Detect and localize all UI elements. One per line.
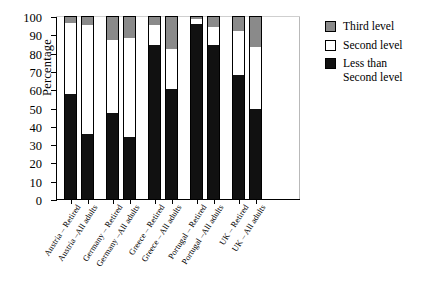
bar-segment-third <box>249 16 262 47</box>
bar-segment-second <box>249 47 262 109</box>
y-axis-tick-label: 20 <box>30 158 43 171</box>
bar-germany-retired <box>106 16 119 199</box>
y-axis-tick-label: 50 <box>30 103 43 116</box>
bar-segment-second <box>106 40 119 113</box>
bar-segment-second <box>232 31 245 75</box>
bar-segment-third <box>81 16 94 25</box>
legend-swatch-low <box>325 58 336 69</box>
bar-segment-low <box>190 24 203 199</box>
bar-segment-low <box>249 109 262 199</box>
y-axis-tick-label: 100 <box>23 12 42 25</box>
x-axis-tick <box>113 199 114 204</box>
x-axis-tick <box>88 199 89 204</box>
x-axis-tick <box>214 199 215 204</box>
bar-segment-second <box>148 25 161 45</box>
bar-greece-retired <box>148 16 161 199</box>
bar-segment-second <box>64 23 77 93</box>
bar-uk-all-adults <box>249 16 262 199</box>
x-axis-tick <box>71 199 72 204</box>
bar-segment-third <box>148 16 161 25</box>
y-axis-tick: 90 <box>51 35 57 36</box>
bar-segment-low <box>165 89 178 199</box>
y-axis-tick: 100 <box>51 17 57 18</box>
stacked-bar-chart: Percentage 0102030405060708090100 Austri… <box>0 0 433 285</box>
bar-portugal-retired <box>190 16 203 199</box>
y-axis-tick-label: 80 <box>30 48 43 61</box>
x-axis-tick <box>239 199 240 204</box>
y-axis-tick: 50 <box>51 109 57 110</box>
y-axis-tick-label: 70 <box>30 67 43 80</box>
legend-swatch-third <box>325 21 336 32</box>
bar-segment-third <box>123 16 136 38</box>
bar-segment-third <box>165 16 178 49</box>
bar-segment-low <box>232 75 245 199</box>
bar-segment-low <box>148 45 161 199</box>
y-axis-tick-label: 90 <box>30 30 43 43</box>
x-axis-tick <box>155 199 156 204</box>
y-axis-tick: 30 <box>51 145 57 146</box>
bar-segment-low <box>123 137 136 199</box>
y-axis-tick-label: 60 <box>30 85 43 98</box>
bar-portugal-all-adults <box>207 16 220 199</box>
legend-label: Third level <box>343 20 394 34</box>
legend-item: Less than Second level <box>325 57 403 84</box>
y-axis-tick-label: 10 <box>30 176 43 189</box>
bar-segment-low <box>81 134 94 199</box>
bar-austria-all-adults <box>81 16 94 199</box>
y-axis-tick: 20 <box>51 163 57 164</box>
y-axis-tick: 10 <box>51 182 57 183</box>
x-axis-tick <box>256 199 257 204</box>
legend-item: Third level <box>325 20 403 34</box>
bar-segment-third <box>106 16 119 40</box>
bar-segment-third <box>232 16 245 31</box>
bar-segment-second <box>123 38 136 137</box>
plot-area: 0102030405060708090100 <box>56 17 300 200</box>
bar-uk-retired <box>232 16 245 199</box>
chart-legend: Third levelSecond levelLess than Second … <box>325 20 403 90</box>
legend-label: Second level <box>343 39 403 53</box>
x-axis-tick <box>130 199 131 204</box>
bar-segment-second <box>81 25 94 134</box>
x-axis-tick <box>197 199 198 204</box>
y-axis-tick: 70 <box>51 72 57 73</box>
bar-segment-third <box>64 16 77 23</box>
bar-segment-second <box>165 49 178 89</box>
x-axis-tick <box>172 199 173 204</box>
y-axis-tick-label: 0 <box>36 195 42 208</box>
legend-label: Less than Second level <box>343 57 403 84</box>
y-axis-tick: 0 <box>51 200 57 201</box>
legend-item: Second level <box>325 39 403 53</box>
y-axis-tick-label: 30 <box>30 140 43 153</box>
y-axis-tick: 40 <box>51 127 57 128</box>
bar-germany-all-adults <box>123 16 136 199</box>
legend-swatch-second <box>325 40 336 51</box>
bar-segment-third <box>207 16 220 27</box>
y-axis-tick-label: 40 <box>30 122 43 135</box>
bar-segment-low <box>207 45 220 199</box>
bar-segment-low <box>64 94 77 199</box>
bar-austria-retired <box>64 16 77 199</box>
y-axis-tick: 60 <box>51 90 57 91</box>
bar-segment-second <box>207 27 220 45</box>
bar-greece-all-adults <box>165 16 178 199</box>
bar-segment-low <box>106 113 119 199</box>
y-axis-tick: 80 <box>51 54 57 55</box>
